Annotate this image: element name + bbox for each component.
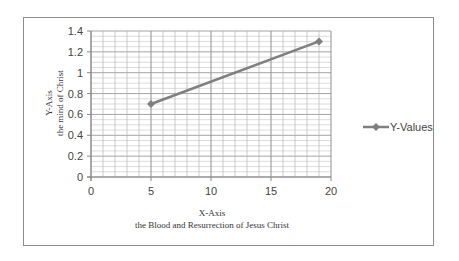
x-tick-label: 20: [325, 185, 337, 197]
y-tick-label: 0.4: [68, 129, 83, 141]
plot-gridlines: [91, 31, 331, 177]
x-axis-title: X-Axis the Blood and Resurrection of Jes…: [135, 208, 289, 230]
line-chart: 00.20.40.60.811.21.4 05101520 Y-Axis the…: [0, 0, 459, 261]
x-tick-label: 0: [88, 185, 94, 197]
data-point-diamond-icon: [315, 37, 323, 45]
x-tick-label: 10: [205, 185, 217, 197]
y-axis-title: Y-Axis the mind of Christ: [44, 70, 65, 136]
legend: Y-Values: [363, 121, 433, 133]
legend-diamond-icon: [372, 123, 380, 131]
x-tick-label: 5: [148, 185, 154, 197]
x-axis-tick-labels: 05101520: [88, 177, 337, 197]
y-tick-label: 1: [77, 67, 83, 79]
y-axis-tick-labels: 00.20.40.60.811.21.4: [68, 25, 91, 183]
y-tick-label: 1.2: [68, 46, 83, 58]
data-point-diamond-icon: [147, 100, 155, 108]
x-axis-sublabel: the Blood and Resurrection of Jesus Chri…: [135, 220, 289, 230]
y-axis-label: Y-Axis: [44, 90, 54, 116]
plot-axes: [87, 31, 331, 181]
y-tick-label: 0.8: [68, 88, 83, 100]
x-tick-label: 15: [265, 185, 277, 197]
y-tick-label: 0: [77, 171, 83, 183]
legend-label: Y-Values: [390, 121, 433, 133]
y-tick-label: 0.6: [68, 108, 83, 120]
y-axis-sublabel: the mind of Christ: [55, 70, 65, 136]
x-axis-label: X-Axis: [199, 208, 226, 218]
y-tick-label: 1.4: [68, 25, 83, 37]
y-tick-label: 0.2: [68, 150, 83, 162]
